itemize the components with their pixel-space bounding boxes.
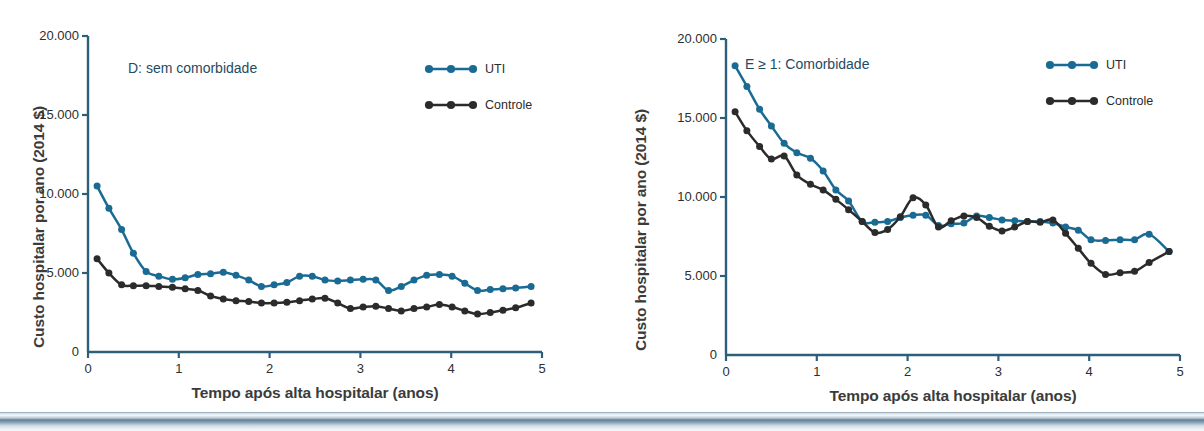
data-point-uti <box>372 277 379 284</box>
data-point-controle <box>935 224 942 231</box>
chart-panel-right: Custo hospitalar por ano (2014 $) Tempo … <box>602 0 1204 400</box>
data-point-uti <box>1117 236 1124 243</box>
data-point-uti <box>194 271 201 278</box>
data-point-controle <box>296 297 303 304</box>
data-point-controle <box>347 305 354 312</box>
x-tick-label: 2 <box>250 361 290 376</box>
data-point-controle <box>1117 269 1124 276</box>
y-tick-label: 10.000 <box>39 186 79 201</box>
data-point-uti <box>410 277 417 284</box>
data-point-controle <box>155 283 162 290</box>
y-tick-label: 5.000 <box>684 268 717 283</box>
data-point-uti <box>474 287 481 294</box>
data-point-uti <box>528 283 535 290</box>
data-point-controle <box>118 281 125 288</box>
data-point-controle <box>922 201 929 208</box>
data-point-controle <box>258 300 265 307</box>
data-point-controle <box>845 206 852 213</box>
data-point-uti <box>487 286 494 293</box>
data-point-controle <box>910 194 917 201</box>
data-point-uti <box>793 149 800 156</box>
data-point-controle <box>398 307 405 314</box>
x-axis-title: Tempo após alta hospitalar (anos) <box>88 384 542 402</box>
data-point-uti <box>884 218 891 225</box>
data-point-controle <box>1049 216 1056 223</box>
data-point-uti <box>499 285 506 292</box>
data-point-controle <box>233 297 240 304</box>
data-point-controle <box>871 229 878 236</box>
data-point-controle <box>360 303 367 310</box>
x-tick-label: 0 <box>68 361 108 376</box>
data-point-controle <box>194 287 201 294</box>
data-point-uti <box>271 281 278 288</box>
data-point-controle <box>487 309 494 316</box>
y-tick-label: 20.000 <box>677 31 717 46</box>
data-point-uti <box>283 279 290 286</box>
data-point-uti <box>832 186 839 193</box>
y-axis-title: Custo hospitalar por ano (2014 $) <box>30 106 48 348</box>
data-point-controle <box>986 223 993 230</box>
data-point-controle <box>756 143 763 150</box>
data-point-uti <box>845 197 852 204</box>
data-point-controle <box>948 217 955 224</box>
data-point-uti <box>182 274 189 281</box>
x-tick-label: 1 <box>159 361 199 376</box>
data-point-uti <box>999 216 1006 223</box>
data-point-uti <box>768 122 775 129</box>
data-point-controle <box>182 285 189 292</box>
x-tick-label: 3 <box>978 364 1018 379</box>
data-point-uti <box>334 277 341 284</box>
data-point-controle <box>410 305 417 312</box>
legend-item-uti[interactable]: UTI <box>423 58 532 80</box>
data-point-uti <box>245 277 252 284</box>
data-point-controle <box>499 307 506 314</box>
data-point-uti <box>960 220 967 227</box>
data-point-uti <box>1102 237 1109 244</box>
data-point-controle <box>807 181 814 188</box>
data-point-controle <box>512 304 519 311</box>
data-point-uti <box>130 250 137 257</box>
data-point-uti <box>347 277 354 284</box>
data-point-uti <box>1011 217 1018 224</box>
y-tick-label: 15.000 <box>39 107 79 122</box>
data-point-controle <box>474 311 481 318</box>
data-point-uti <box>220 269 227 276</box>
legend-item-controle[interactable]: Controle <box>1044 90 1153 112</box>
x-tick-label: 2 <box>888 364 928 379</box>
data-point-controle <box>859 218 866 225</box>
data-point-uti <box>820 167 827 174</box>
data-point-controle <box>1024 218 1031 225</box>
legend-label-uti: UTI <box>485 62 505 76</box>
data-point-controle <box>1146 259 1153 266</box>
data-point-controle <box>449 303 456 310</box>
chart-panel-left: Custo hospitalar por ano (2014 $) Tempo … <box>0 0 602 400</box>
y-tick-label: 0 <box>72 344 79 359</box>
data-point-uti <box>781 140 788 147</box>
data-point-controle <box>768 156 775 163</box>
data-point-controle <box>732 108 739 115</box>
data-point-controle <box>999 227 1006 234</box>
data-point-controle <box>220 296 227 303</box>
data-point-uti <box>155 273 162 280</box>
legend-right: UTI Controle <box>1044 54 1153 112</box>
data-point-uti <box>436 271 443 278</box>
data-point-uti <box>321 277 328 284</box>
data-point-controle <box>309 296 316 303</box>
x-tick-label: 5 <box>1160 364 1200 379</box>
legend-swatch-uti-icon <box>1044 58 1100 72</box>
data-point-controle <box>271 300 278 307</box>
figure-root: Custo hospitalar por ano (2014 $) Tempo … <box>0 0 1204 431</box>
data-point-controle <box>245 298 252 305</box>
data-point-controle <box>283 299 290 306</box>
y-tick-label: 5.000 <box>46 265 79 280</box>
y-tick-label: 15.000 <box>677 110 717 125</box>
data-point-controle <box>1131 268 1138 275</box>
data-point-uti <box>118 226 125 233</box>
legend-item-controle[interactable]: Controle <box>423 94 532 116</box>
data-point-uti <box>296 273 303 280</box>
data-point-controle <box>1166 248 1173 255</box>
legend-item-uti[interactable]: UTI <box>1044 54 1153 76</box>
y-tick-label: 0 <box>710 347 717 362</box>
data-point-controle <box>461 307 468 314</box>
data-point-controle <box>832 196 839 203</box>
